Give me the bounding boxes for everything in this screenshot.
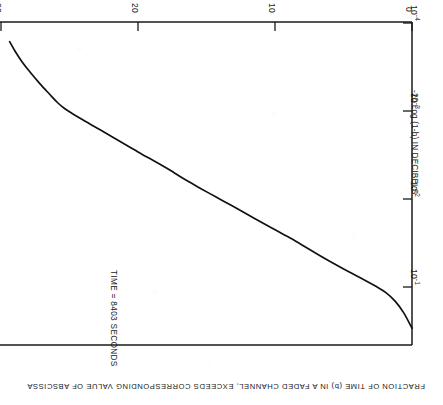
chart-figure: 0 10 20 30 -20 Log (1-b) IN DECIBELS 10-…	[0, 0, 443, 405]
fraction-tick-mantissa: 10	[409, 93, 419, 103]
time-annotation: TIME = 8403 SECONDS	[109, 270, 118, 367]
db-axis-ticks	[1, 22, 412, 31]
fraction-tick-label-1e-3: 10-3	[409, 93, 421, 109]
data-curve	[10, 42, 412, 329]
fraction-tick-exponent: -2	[414, 191, 421, 197]
fraction-tick-exponent: -3	[414, 103, 421, 109]
fraction-tick-exponent: -1	[414, 279, 421, 285]
fraction-tick-mantissa: 10	[409, 5, 419, 15]
fraction-tick-label-1e-1: 10-1	[409, 269, 421, 285]
db-tick-label-10: 10	[267, 3, 277, 13]
fraction-tick-label-1e-4: 10-4	[409, 5, 421, 21]
fraction-tick-mantissa: 10	[409, 269, 419, 279]
fraction-tick-exponent: -4	[414, 15, 421, 21]
fraction-tick-mantissa: 10	[409, 181, 419, 191]
fraction-tick-label-1e-2: 10-2	[409, 181, 421, 197]
db-tick-label-20: 20	[130, 3, 140, 13]
db-tick-label-30: 30	[0, 3, 3, 13]
plot-canvas	[0, 0, 443, 405]
fraction-axis-title: FRACTION OF TIME (b) IN A FADED CHANNEL,…	[27, 382, 425, 391]
plot-frame	[0, 22, 412, 345]
